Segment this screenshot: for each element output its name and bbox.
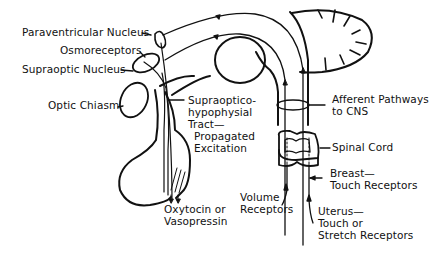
diagram-canvas: Paraventricular Nucleus Osmoreceptors Su… — [0, 0, 439, 255]
label-afferent-line2: to CNS — [332, 106, 368, 118]
label-volume-line2: Receptors — [240, 204, 293, 216]
label-supraoptic-nucleus: Supraoptic Nucleus — [22, 64, 126, 76]
label-optic-chiasm: Optic Chiasm — [48, 100, 119, 112]
label-tract-line5: Excitation — [194, 143, 247, 155]
label-paraventricular-nucleus: Paraventricular Nucleus — [22, 27, 149, 39]
label-volume-line1: Volume — [240, 192, 280, 204]
label-tract-line1: Supraoptico- — [188, 95, 256, 107]
label-vasopressin: Vasopressin — [164, 216, 228, 228]
label-uterus-line1: Uterus— — [318, 206, 364, 218]
label-osmoreceptors: Osmoreceptors — [60, 45, 141, 57]
thalamus-oval — [215, 37, 265, 83]
pituitary-gland — [119, 90, 190, 205]
optic-chiasm-shape — [115, 78, 154, 122]
label-spinal-cord: Spinal Cord — [332, 142, 393, 154]
afferent-oval — [277, 100, 309, 110]
label-tract-line2: hypophysial — [188, 107, 252, 119]
label-tract-line3: Tract— — [188, 119, 225, 131]
label-afferent-line1: Afferent Pathways — [332, 94, 429, 106]
label-breast-line1: Breast— — [330, 168, 375, 180]
label-tract-line4: Propagated — [194, 131, 255, 143]
label-oxytocin: Oxytocin or — [164, 204, 226, 216]
label-uterus-line2: Touch or — [318, 218, 363, 230]
label-breast-line2: Touch Receptors — [330, 180, 417, 192]
ascending-arrowheads — [283, 68, 305, 85]
label-uterus-line3: Stretch Receptors — [318, 230, 413, 242]
